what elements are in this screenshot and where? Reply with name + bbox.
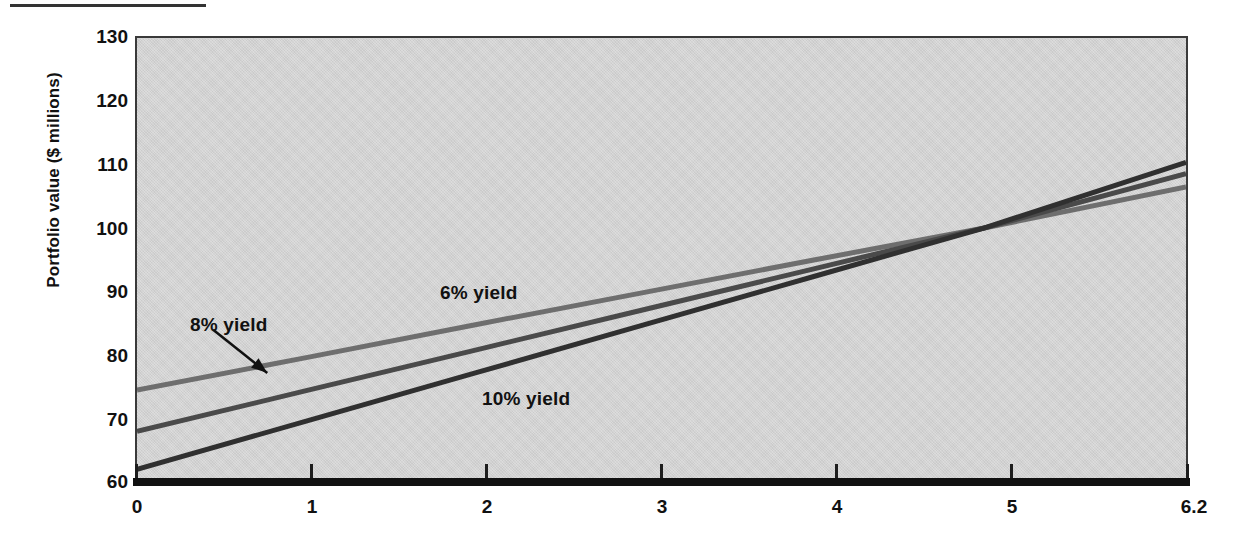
x-tick-mark-5 — [1010, 464, 1013, 479]
x-tick-label-2: 2 — [457, 496, 517, 518]
y-tick-label-80: 80 — [68, 346, 128, 365]
y-tick-label-110: 110 — [68, 155, 128, 174]
y-tick-label-70: 70 — [68, 410, 128, 429]
x-tick-label-1: 1 — [282, 496, 342, 518]
x-tick-label-3: 3 — [632, 496, 692, 518]
y-axis-tick-labels: 130 120 110 100 90 80 70 60 — [62, 0, 128, 558]
y-axis-title: Portfolio value ($ millions) — [44, 30, 64, 330]
chart-figure: Portfolio value ($ millions) 130 120 110… — [0, 0, 1238, 558]
x-tick-label-5: 5 — [982, 496, 1042, 518]
x-tick-mark-1 — [310, 464, 313, 479]
x-axis-line — [133, 478, 1190, 486]
y-tick-label-90: 90 — [68, 282, 128, 301]
series-lines-svg — [137, 38, 1186, 482]
series-label-6-percent: 6% yield — [440, 282, 518, 304]
x-tick-label-4: 4 — [807, 496, 867, 518]
series-label-10-percent: 10% yield — [482, 388, 570, 410]
y-tick-label-120: 120 — [68, 91, 128, 110]
plot-area — [135, 36, 1188, 482]
y-tick-label-100: 100 — [68, 219, 128, 238]
x-tick-mark-6p2 — [1186, 464, 1189, 479]
x-tick-mark-0 — [135, 464, 138, 479]
x-tick-label-6p2: 6.2 — [1164, 496, 1224, 518]
series-line-10-yield — [137, 162, 1186, 469]
series-label-8-percent: 8% yield — [190, 314, 268, 336]
x-tick-mark-4 — [835, 464, 838, 479]
x-tick-mark-2 — [485, 464, 488, 479]
x-tick-label-0: 0 — [107, 496, 167, 518]
y-tick-label-60: 60 — [68, 472, 128, 491]
y-tick-label-130: 130 — [68, 27, 128, 46]
x-tick-mark-3 — [660, 464, 663, 479]
